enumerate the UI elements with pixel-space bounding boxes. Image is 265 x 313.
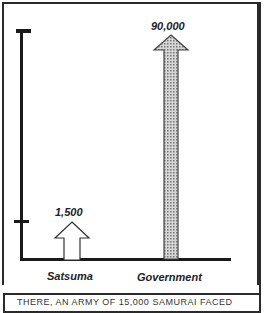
caption-box: THERE, AN ARMY OF 15,000 SAMURAI FACED [3,293,261,313]
chart-panel [2,2,259,285]
y-axis-top-cap [16,29,31,33]
category-label-government: Government [137,271,202,283]
bar-arrow-government [152,34,190,260]
category-label-satsuma: Satsuma [47,270,93,282]
y-axis-tick [14,220,29,223]
panel-border-right [259,2,261,302]
value-label-satsuma: 1,500 [55,206,83,218]
value-label-government: 90,000 [151,20,185,32]
bar-arrow-satsuma [53,221,91,261]
y-axis [20,31,23,261]
caption-text: THERE, AN ARMY OF 15,000 SAMURAI FACED [17,297,232,307]
x-axis [20,258,231,261]
